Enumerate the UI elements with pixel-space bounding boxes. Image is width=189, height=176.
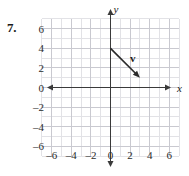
coordinate-plane-chart: –6–4–20246 6420–2–4–6 x y v	[0, 0, 189, 176]
y-axis-tick-labels: 6420–2–4–6	[32, 23, 45, 153]
x-tick-3: 0	[108, 149, 114, 161]
y-tick-1: 4	[39, 42, 45, 54]
vector-v-label: v	[130, 52, 136, 64]
x-tick-1: –4	[65, 149, 78, 161]
y-tick-5: –4	[32, 121, 45, 133]
figure-container: 7. –6–4–20246 6420–2–4–6 x y v	[0, 0, 189, 176]
x-tick-2: –2	[84, 149, 96, 161]
y-axis-label: y	[113, 3, 119, 15]
x-tick-5: 4	[147, 149, 153, 161]
y-tick-6: –6	[32, 140, 45, 152]
x-tick-6: 6	[167, 149, 173, 161]
y-tick-0: 6	[39, 23, 45, 35]
x-tick-4: 2	[127, 149, 133, 161]
x-axis-label: x	[176, 82, 182, 94]
y-tick-3: 0	[39, 82, 45, 94]
y-tick-2: 2	[39, 62, 45, 74]
y-tick-4: –2	[32, 101, 44, 113]
axes	[47, 9, 171, 167]
x-tick-0: –6	[45, 149, 58, 161]
x-axis-tick-labels: –6–4–20246	[45, 149, 172, 161]
